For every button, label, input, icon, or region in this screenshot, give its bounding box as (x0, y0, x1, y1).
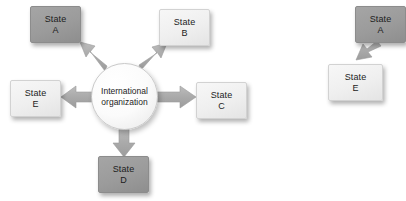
node-state-e-secondary[interactable]: State E (328, 64, 383, 101)
node-state-a-secondary[interactable]: State A (355, 6, 406, 43)
node-state-a-secondary-line1: State (370, 14, 392, 24)
node-state-e-secondary-line2: E (352, 83, 358, 93)
arrow-state-a2-to-state-e2 (356, 41, 381, 60)
node-state-a-secondary-line2: A (377, 25, 383, 35)
node-state-e-secondary-line1: State (345, 72, 367, 82)
